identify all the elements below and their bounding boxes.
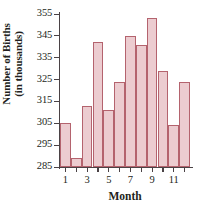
x-axis-tick xyxy=(130,167,131,172)
y-axis-tick-label: 335 xyxy=(20,51,52,62)
x-axis-tick-label: 5 xyxy=(99,174,119,185)
y-axis-title-line-2: (in thousands) xyxy=(13,31,25,97)
y-axis-tick-label: 345 xyxy=(20,29,52,40)
y-axis-tick-label: 325 xyxy=(20,73,52,84)
x-axis-tick-label: 3 xyxy=(77,174,97,185)
x-axis-title: Month xyxy=(55,190,195,202)
y-axis-tick xyxy=(54,145,59,146)
x-axis-tick xyxy=(119,167,120,172)
y-axis-tick xyxy=(54,167,59,168)
y-axis-tick xyxy=(54,79,59,80)
y-axis-tick-label: 295 xyxy=(20,138,52,149)
x-axis-tick xyxy=(97,167,98,172)
x-axis-tick xyxy=(141,167,142,172)
x-axis-tick xyxy=(76,167,77,172)
y-axis-title: Number of Births (in thousands) xyxy=(0,4,27,124)
x-axis-tick-label: 11 xyxy=(164,174,184,185)
histogram-bar xyxy=(125,36,136,167)
histogram-bar xyxy=(158,71,169,167)
histogram-bar xyxy=(71,158,82,167)
histogram-figure: Number of Births (in thousands) 28529530… xyxy=(0,0,215,214)
histogram-bar xyxy=(60,123,71,167)
x-axis-tick xyxy=(162,167,163,172)
y-axis-tick-label: 285 xyxy=(20,160,52,171)
histogram-bar xyxy=(168,125,179,167)
y-axis-tick xyxy=(54,123,59,124)
x-axis-tick-label: 1 xyxy=(55,174,75,185)
y-axis-tick-label: 305 xyxy=(20,116,52,127)
histogram-bar xyxy=(136,45,147,167)
x-axis-tick xyxy=(184,167,185,172)
x-axis-tick xyxy=(108,167,109,172)
histogram-bar xyxy=(93,42,104,167)
x-axis-tick xyxy=(87,167,88,172)
x-axis-tick xyxy=(65,167,66,172)
histogram-bar xyxy=(147,18,158,167)
histogram-bar xyxy=(103,110,114,167)
y-axis-tick-label: 355 xyxy=(20,7,52,18)
y-axis-tick-label: 315 xyxy=(20,94,52,105)
x-axis-tick-label: 9 xyxy=(142,174,162,185)
x-axis-tick xyxy=(173,167,174,172)
x-axis-tick-label: 7 xyxy=(120,174,140,185)
histogram-bar xyxy=(114,82,125,167)
y-axis-tick xyxy=(54,35,59,36)
histogram-bar xyxy=(82,106,93,167)
y-axis-tick xyxy=(54,57,59,58)
plot-area xyxy=(60,14,190,167)
y-axis-tick xyxy=(54,101,59,102)
histogram-bar xyxy=(179,82,190,167)
y-axis-tick xyxy=(54,14,59,15)
x-axis-tick xyxy=(152,167,153,172)
